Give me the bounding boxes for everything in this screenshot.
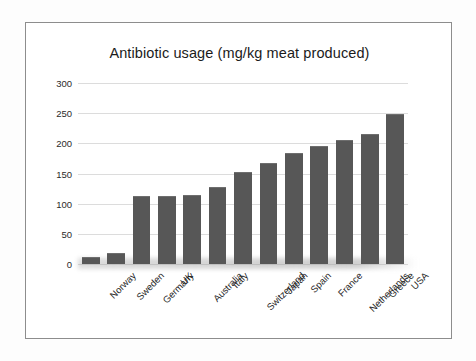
y-axis-tick-label: 100 xyxy=(56,198,72,209)
bar[interactable] xyxy=(310,146,328,264)
bar[interactable] xyxy=(361,134,379,264)
bar[interactable] xyxy=(386,114,404,264)
chart-frame: Antibiotic usage (mg/kg meat produced) 0… xyxy=(25,22,452,339)
bar[interactable] xyxy=(234,172,252,264)
plot-area: 050100150200250300 xyxy=(78,83,408,264)
bar-slot xyxy=(336,83,354,264)
bar[interactable] xyxy=(209,187,227,264)
chart-title: Antibiotic usage (mg/kg meat produced) xyxy=(26,45,453,61)
y-axis-tick-label: 250 xyxy=(56,108,72,119)
bar-slot xyxy=(310,83,328,264)
x-axis-tick-label: Japan xyxy=(283,270,309,296)
bar-slot xyxy=(133,83,151,264)
bar[interactable] xyxy=(285,153,303,264)
bar-slot xyxy=(361,83,379,264)
y-axis-tick-label: 50 xyxy=(61,228,72,239)
bar-slot xyxy=(285,83,303,264)
bar[interactable] xyxy=(158,196,176,264)
bar-slot xyxy=(234,83,252,264)
x-axis-labels: NorwaySwedenGermanyUKAustraliaItalySwitz… xyxy=(78,264,408,334)
y-axis-tick-label: 0 xyxy=(67,259,72,270)
bar[interactable] xyxy=(107,253,125,264)
bar-slot xyxy=(107,83,125,264)
bar[interactable] xyxy=(133,196,151,264)
bar-slot xyxy=(82,83,100,264)
bar-slot xyxy=(386,83,404,264)
bar[interactable] xyxy=(82,257,100,264)
bar-slot xyxy=(209,83,227,264)
bar-slot xyxy=(158,83,176,264)
y-axis-tick-label: 150 xyxy=(56,168,72,179)
bar[interactable] xyxy=(336,140,354,264)
bar-series xyxy=(78,83,408,264)
y-axis-tick-label: 300 xyxy=(56,78,72,89)
y-axis-tick-label: 200 xyxy=(56,138,72,149)
x-axis-tick-label: France xyxy=(335,270,364,299)
bar-slot xyxy=(260,83,278,264)
x-axis-tick-label: Norway xyxy=(108,270,139,301)
bar-slot xyxy=(183,83,201,264)
chart-page: Antibiotic usage (mg/kg meat produced) 0… xyxy=(0,0,476,361)
bar[interactable] xyxy=(260,163,278,264)
bar[interactable] xyxy=(183,195,201,264)
x-axis-tick-label: Spain xyxy=(308,270,333,295)
